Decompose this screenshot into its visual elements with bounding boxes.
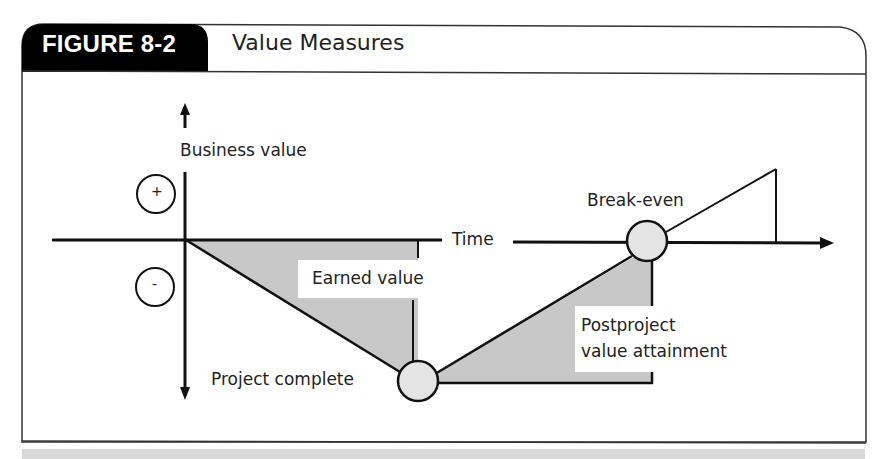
positive-marker: + bbox=[151, 183, 163, 199]
project-complete-node bbox=[398, 361, 438, 401]
earned-value-label: Earned value bbox=[298, 260, 436, 298]
break-even-label: Break-even bbox=[587, 190, 684, 210]
postproject-label-line1: Postproject bbox=[581, 312, 727, 338]
y-axis-label: Business value bbox=[180, 140, 307, 160]
break-even-node bbox=[627, 221, 667, 261]
figure-number: FIGURE 8-2 bbox=[42, 30, 176, 58]
x-axis-label: Time bbox=[452, 229, 494, 249]
negative-marker: - bbox=[152, 276, 157, 292]
postproject-label-line2: value attainment bbox=[581, 338, 727, 364]
figure-frame bbox=[0, 0, 883, 459]
figure-title: Value Measures bbox=[232, 30, 404, 55]
project-complete-label: Project complete bbox=[211, 369, 354, 389]
postproject-label: Postproject value attainment bbox=[575, 306, 739, 372]
bottom-shade-band bbox=[22, 449, 865, 459]
